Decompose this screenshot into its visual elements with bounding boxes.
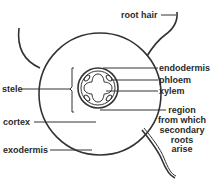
label-region-line5: arise (171, 144, 192, 154)
label-endodermis: endodermis (159, 63, 210, 73)
label-cortex: cortex (3, 117, 30, 127)
label-stele: stele (2, 84, 23, 94)
label-phloem: phloem (159, 75, 191, 85)
label-region-line2: from which (158, 115, 206, 125)
label-exodermis: exodermis (3, 145, 48, 155)
label-root-hair: root hair (121, 10, 158, 20)
label-region-line1: region (168, 105, 196, 115)
root-hair-left (19, 28, 40, 68)
root-cross-section-diagram: root hair endodermis phloem xylem stele … (0, 0, 216, 187)
label-xylem: xylem (159, 86, 185, 96)
label-region-line3: secondary (159, 125, 204, 135)
